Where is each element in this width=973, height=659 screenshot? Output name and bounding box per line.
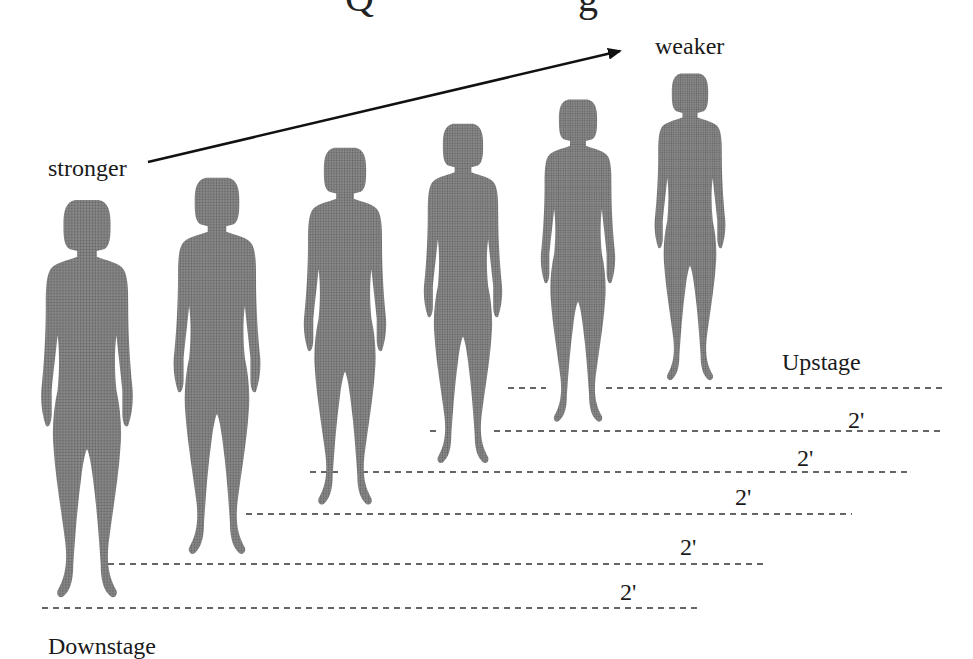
upstage-label: Upstage (782, 350, 861, 374)
stage-positions-diagram: Q g (0, 0, 973, 659)
strength-arrow (148, 51, 620, 162)
figure-1 (41, 200, 133, 597)
figure-3 (304, 148, 386, 505)
figure-2 (174, 178, 261, 554)
floor-lines (42, 388, 942, 608)
distance-label-2: 2' (797, 446, 813, 470)
figures (41, 74, 725, 598)
downstage-label: Downstage (48, 634, 156, 658)
figure-5 (541, 100, 615, 422)
distance-label-5: 2' (620, 580, 636, 604)
diagram-canvas (0, 0, 973, 659)
distance-label-3: 2' (735, 485, 751, 509)
weaker-label: weaker (655, 34, 724, 58)
stronger-label: stronger (48, 156, 127, 180)
distance-label-1: 2' (848, 408, 864, 432)
distance-label-4: 2' (680, 535, 696, 559)
figure-6 (655, 74, 726, 381)
figure-4 (424, 124, 502, 463)
